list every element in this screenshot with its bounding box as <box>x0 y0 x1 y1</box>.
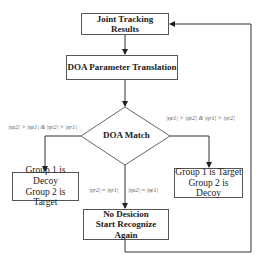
bottom-left-condition-label: |ηr2| ≈ |ηr1| <box>89 187 119 193</box>
no-decision-line-1: No Desicion <box>103 209 149 219</box>
doa-parameter-translation-box: DOA Parameter Translation <box>66 55 178 80</box>
decoy-target-result-box: Group 1 is Decoy Group 2 is Target <box>12 172 79 201</box>
result-line-1: Group 1 is Target <box>175 167 241 178</box>
left-condition-label: |ηe2| > |ηe1| & |ηr2| > |ηr1| <box>8 124 77 130</box>
joint-tracking-results-box: Joint Tracking Results <box>81 13 169 35</box>
doa-match-label: DOA Match <box>103 130 150 140</box>
result-line-2: Group 2 is Target <box>13 187 78 209</box>
result-line-1: Group 1 is Decoy <box>13 165 78 187</box>
right-condition-label: |ηe1| > |ηe2| & |ηr1| > |ηr2| <box>166 115 235 121</box>
target-decoy-result-box: Group 1 is Target Group 2 is Decoy <box>174 168 243 198</box>
joint-tracking-results-label: Joint Tracking Results <box>82 14 168 35</box>
no-decision-box: No Desicion Start Recognize Again <box>83 209 169 240</box>
result-line-2: Group 2 is Decoy <box>175 178 242 200</box>
doa-parameter-translation-label: DOA Parameter Translation <box>68 62 177 72</box>
no-decision-line-2: Start Recognize Again <box>84 219 168 240</box>
bottom-right-condition-label: |ηe2| ≈ |ηe1| <box>128 187 158 193</box>
